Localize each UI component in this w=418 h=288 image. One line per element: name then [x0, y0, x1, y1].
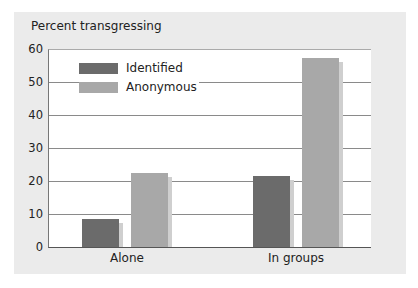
- y-tick-60: 60: [21, 42, 43, 56]
- legend-label-identified: Identified: [126, 61, 183, 75]
- y-tick-20: 20: [21, 174, 43, 188]
- legend-swatch-anonymous: [79, 82, 118, 93]
- y-tick-30: 30: [21, 141, 43, 155]
- bar-ingroups-identified: [253, 176, 290, 247]
- legend-item-identified: Identified: [79, 61, 183, 75]
- x-label-alone: Alone: [77, 251, 177, 265]
- y-tick-40: 40: [21, 108, 43, 122]
- y-tick-10: 10: [21, 207, 43, 221]
- y-tick-50: 50: [21, 75, 43, 89]
- legend-item-anonymous: Anonymous: [79, 80, 197, 94]
- y-tick-0: 0: [21, 240, 43, 254]
- legend-label-anonymous: Anonymous: [126, 80, 197, 94]
- plot-area: Identified Anonymous: [48, 49, 371, 248]
- bar-alone-identified: [82, 219, 119, 247]
- x-label-in-groups: In groups: [246, 251, 346, 265]
- legend-swatch-identified: [79, 63, 118, 74]
- y-axis-title: Percent transgressing: [31, 19, 162, 33]
- legend: Identified Anonymous: [79, 58, 199, 92]
- bar-alone-anonymous: [131, 173, 168, 247]
- bar-ingroups-anonymous: [302, 58, 339, 247]
